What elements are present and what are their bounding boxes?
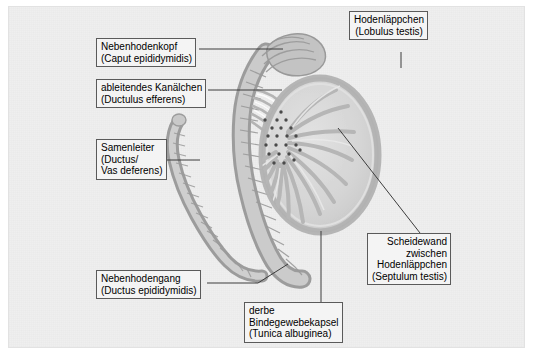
label-samenleiter-line1: Samenleiter [101,142,154,153]
label-hodenlaeppchen[interactable]: Hodenläppchen (Lobulus testis) [349,11,428,40]
label-samenleiter[interactable]: Samenleiter (Ductus/ Vas deferens) [96,139,167,180]
label-nebenhodengang-line1: Nebenhodengang [101,273,181,284]
label-ableitendes-kanaelchen[interactable]: ableitendes Kanälchen (Ductulus efferens… [96,79,206,108]
label-septulum-testis-line4: (Septulum testis) [372,271,447,282]
label-tunica-albuginea[interactable]: derbe Bindegewebekapsel (Tunica albugine… [244,302,343,343]
label-septulum-testis-line3: Hodenläppchen [377,259,447,270]
label-nebenhodengang[interactable]: Nebenhodengang (Ductus epididymidis) [96,270,201,299]
label-tunica-albuginea-line3: (Tunica albuginea) [249,328,331,339]
label-hodenlaeppchen-line2: (Lobulus testis) [355,26,423,37]
label-ableitendes-kanaelchen-line1: ableitendes Kanälchen [101,82,202,93]
label-septulum-testis-line1: Scheidewand [387,236,447,247]
label-samenleiter-line3: Vas deferens) [101,165,163,176]
label-nebenhodenkopf[interactable]: Nebenhodenkopf (Caput epididymidis) [96,38,196,67]
label-ableitendes-kanaelchen-line2: (Ductulus efferens) [101,94,185,105]
label-samenleiter-line2: (Ductus/ [101,154,138,165]
label-nebenhodenkopf-line2: (Caput epididymidis) [101,53,192,64]
label-tunica-albuginea-line2: Bindegewebekapsel [249,317,339,328]
anatomy-figure: Hodenläppchen (Lobulus testis) Nebenhode… [0,0,539,361]
label-septulum-testis-line2: zwischen [406,248,447,259]
label-hodenlaeppchen-line1: Hodenläppchen [354,14,424,25]
label-nebenhodenkopf-line1: Nebenhodenkopf [101,41,177,52]
label-nebenhodengang-line2: (Ductus epididymidis) [101,285,197,296]
label-septulum-testis[interactable]: Scheidewand zwischen Hodenläppchen (Sept… [367,233,451,285]
label-tunica-albuginea-line1: derbe [249,305,275,316]
